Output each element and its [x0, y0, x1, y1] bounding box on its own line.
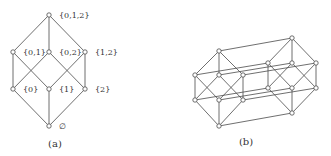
vertex-node	[290, 86, 294, 90]
node-label: {0,1,2}	[59, 11, 90, 20]
vertex-node	[217, 98, 221, 102]
vertex-node	[217, 49, 221, 53]
edge	[219, 113, 292, 126]
hypercube-edges	[195, 38, 316, 126]
node-label: {0}	[23, 85, 38, 94]
figure-canvas: {0,1,2}{0,1}{0,2}{1,2}{0}{1}{2}∅ (a) (b)	[0, 0, 331, 156]
vertex-node	[83, 87, 87, 91]
caption-a: (a)	[48, 138, 62, 149]
vertex-node	[47, 13, 51, 17]
vertex-node	[314, 61, 318, 65]
vertex-node	[217, 73, 221, 77]
node-label: ∅	[59, 122, 66, 131]
edge	[195, 100, 219, 126]
vertex-node	[217, 124, 221, 128]
edge	[13, 89, 49, 126]
vertex-node	[83, 50, 87, 54]
vertex-node	[266, 86, 270, 90]
hasse-edges	[13, 15, 85, 126]
vertex-node	[47, 50, 51, 54]
vertex-node	[193, 73, 197, 77]
vertex-node	[47, 124, 51, 128]
vertex-node	[290, 61, 294, 65]
hasse-diagram-powerset: {0,1,2}{0,1}{0,2}{1,2}{0}{1}{2}∅ (a)	[11, 11, 118, 149]
edge	[13, 15, 49, 52]
edge	[292, 38, 316, 63]
vertex-node	[241, 73, 245, 77]
edge	[49, 15, 85, 52]
vertex-node	[11, 87, 15, 91]
node-label: {1}	[59, 85, 74, 94]
vertex-node	[47, 87, 51, 91]
node-label: {1,2}	[95, 48, 118, 57]
node-label: {0,2}	[59, 48, 82, 57]
hypercube-nodes	[193, 36, 318, 128]
node-label: {0,1}	[23, 48, 46, 57]
vertex-node	[290, 111, 294, 115]
edge	[49, 89, 85, 126]
vertex-node	[11, 50, 15, 54]
caption-b: (b)	[239, 136, 253, 147]
node-label: {2}	[95, 85, 110, 94]
vertex-node	[290, 36, 294, 40]
hasse-node-labels: {0,1,2}{0,1}{0,2}{1,2}{0}{1}{2}∅	[23, 11, 118, 131]
hypercube-projection: (b)	[193, 36, 318, 147]
vertex-node	[241, 98, 245, 102]
vertex-node	[266, 61, 270, 65]
vertex-node	[193, 98, 197, 102]
vertex-node	[314, 86, 318, 90]
